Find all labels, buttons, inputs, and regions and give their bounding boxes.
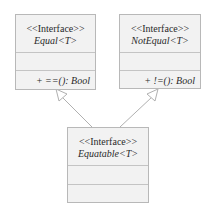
class-equatable[interactable]: <<Interface>> Equatable<T> — [67, 127, 149, 203]
operations-compartment: + !=(): Bool — [120, 70, 200, 88]
class-header: <<Interface>> NotEqual<T> — [120, 15, 200, 47]
class-header: <<Interface>> Equatable<T> — [68, 128, 148, 160]
operation-not-equals: + !=(): Bool — [144, 75, 195, 87]
class-name: NotEqual<T> — [120, 35, 200, 47]
operations-compartment: + ==(): Bool — [16, 70, 95, 89]
operation-equals: + ==(): Bool — [36, 75, 90, 87]
class-name: Equatable<T> — [68, 148, 148, 160]
stereotype-label: <<Interface>> — [16, 23, 95, 35]
class-header: <<Interface>> Equal<T> — [16, 15, 95, 47]
class-name: Equal<T> — [16, 35, 95, 47]
attributes-compartment — [16, 52, 95, 71]
stereotype-label: <<Interface>> — [120, 23, 200, 35]
operations-compartment — [68, 184, 148, 202]
class-equal[interactable]: <<Interface>> Equal<T> + ==(): Bool — [15, 14, 96, 90]
attributes-compartment — [120, 52, 200, 71]
class-notequal[interactable]: <<Interface>> NotEqual<T> + !=(): Bool — [119, 14, 201, 89]
generalization-arrow-notequal — [120, 89, 158, 127]
stereotype-label: <<Interface>> — [68, 136, 148, 148]
generalization-arrow-equal — [56, 89, 92, 127]
attributes-compartment — [68, 165, 148, 184]
